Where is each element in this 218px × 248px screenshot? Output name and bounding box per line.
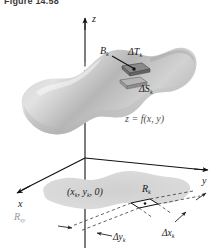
- region-rxy-shape: [43, 171, 190, 209]
- surface-shape: [22, 48, 197, 135]
- x-axis-label: x: [17, 198, 23, 209]
- z-axis-label: z: [91, 13, 96, 24]
- equation-label: z = f(x, y): [124, 113, 165, 125]
- rect-rk-center-dot: [144, 202, 147, 205]
- label-delta-xk: Δxk: [161, 228, 175, 239]
- label-delta-tk: ΔTk: [127, 46, 142, 58]
- label-point-xk-yk-0: (xk, yk, 0): [67, 186, 104, 198]
- figure-container: Figure 14.58: [0, 0, 218, 248]
- label-delta-yk: Δyk: [112, 232, 126, 243]
- y-axis: [85, 158, 208, 170]
- label-bk: Bk: [100, 45, 109, 57]
- y-axis-label: y: [201, 175, 207, 186]
- surface-integral-diagram: z Bk ΔTk ΔSk z: [0, 0, 218, 248]
- label-region-rxy: Rxy: [13, 211, 26, 223]
